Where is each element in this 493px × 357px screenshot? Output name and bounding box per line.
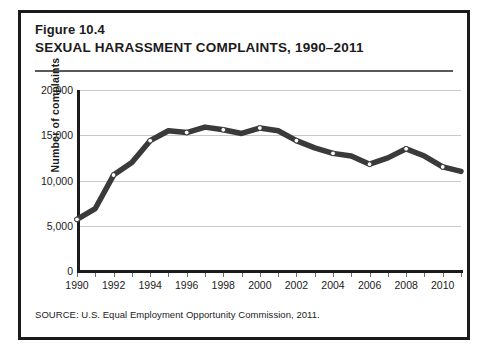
series-line [77,127,461,219]
x-axis-tick-mark [333,273,334,277]
chart-plot: 20,00015,00010,0005,0000 Number of compl… [21,13,467,337]
x-axis-tick-mark [223,273,224,277]
x-axis-tick-label: 1990 [57,279,97,291]
data-point-marker [294,138,299,143]
data-point-marker [367,162,372,167]
data-point-marker [148,138,153,143]
data-point-marker [111,173,116,178]
figure-frame: Figure 10.4 SEXUAL HARASSMENT COMPLAINTS… [18,10,470,340]
data-point-marker [331,151,336,156]
x-axis-tick-mark [205,273,206,277]
series-line-chart [21,13,493,357]
data-point-marker [184,130,189,135]
data-point-marker [75,217,80,222]
source-note: SOURCE: U.S. Equal Employment Opportunit… [35,309,320,320]
x-axis-tick-label: 1994 [130,279,170,291]
x-axis-tick-label: 2010 [423,279,463,291]
x-axis-tick-mark [150,273,151,277]
x-axis-tick-mark [132,273,133,277]
x-axis-tick-mark [296,273,297,277]
x-axis-tick-mark [388,273,389,277]
data-point-marker [404,146,409,151]
x-axis-tick-label: 2000 [240,279,280,291]
data-point-marker [257,126,262,131]
x-axis-tick-mark [278,273,279,277]
x-axis-tick-mark [406,273,407,277]
x-axis-tick-mark [77,273,78,277]
data-point-marker [440,165,445,170]
x-axis-tick-mark [242,273,243,277]
x-axis-tick-mark [424,273,425,277]
x-axis-tick-mark [370,273,371,277]
x-axis-tick-label: 2006 [350,279,390,291]
x-axis-tick-mark [114,273,115,277]
x-axis-tick-label: 1996 [167,279,207,291]
x-axis-tick-mark [168,273,169,277]
x-axis-tick-label: 2004 [313,279,353,291]
x-axis-tick-mark [351,273,352,277]
data-point-marker [221,127,226,132]
x-axis-tick-mark [187,273,188,277]
x-axis-tick-mark [260,273,261,277]
x-axis-tick-mark [95,273,96,277]
x-axis-tick-mark [443,273,444,277]
x-axis-tick-mark [315,273,316,277]
x-axis-tick-label: 2002 [276,279,316,291]
x-axis-tick-label: 2008 [386,279,426,291]
x-axis-tick-label: 1998 [203,279,243,291]
x-axis-tick-mark [461,273,462,277]
x-axis-tick-label: 1992 [94,279,134,291]
